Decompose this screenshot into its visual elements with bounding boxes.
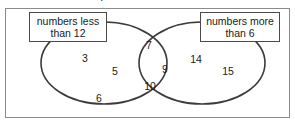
venn-number-5: 5 — [107, 66, 123, 77]
venn-number-10: 10 — [142, 81, 158, 92]
venn-diagram-screenshot: g numbers less than 12 numbers more than… — [0, 0, 295, 125]
label-right-line1: numbers more — [204, 15, 276, 27]
venn-number-15: 15 — [220, 66, 236, 77]
label-right-line2: than 6 — [204, 27, 276, 39]
venn-number-9: 9 — [157, 64, 173, 75]
label-left-line1: numbers less — [33, 15, 103, 27]
label-box-right-set: numbers more than 6 — [200, 12, 280, 42]
label-box-left-set: numbers less than 12 — [29, 12, 107, 42]
venn-number-14: 14 — [188, 54, 204, 65]
label-left-line2: than 12 — [33, 27, 103, 39]
venn-number-7: 7 — [141, 40, 157, 51]
venn-number-3: 3 — [77, 53, 93, 64]
venn-number-6: 6 — [91, 93, 107, 104]
